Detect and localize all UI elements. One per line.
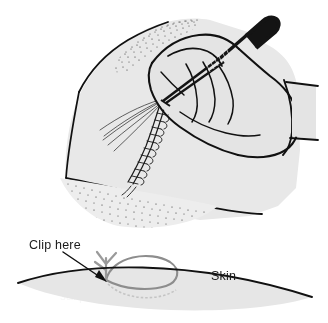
skin-body xyxy=(18,267,312,310)
hand-clipping-suture-scene xyxy=(55,18,318,235)
illustration-figure: након закрытие раны xyxy=(0,0,328,323)
clip-here-label: Clip here xyxy=(29,238,81,252)
illustration-canvas: након закрытие раны xyxy=(0,0,328,323)
skin-label: Skin xyxy=(211,269,236,283)
